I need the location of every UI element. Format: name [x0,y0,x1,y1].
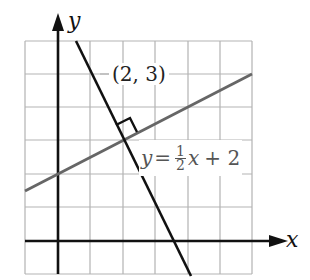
y-axis-arrow-icon [52,13,64,31]
fraction-denominator: 2 [176,159,185,172]
equation-var: x [188,147,199,169]
equation-rest: + 2 [204,147,240,169]
y-axis-label: y [68,8,80,33]
equation-lhs: y [141,147,152,169]
point-label: (2, 3) [109,63,169,85]
equation-label: y = 1 2 x + 2 [139,140,242,176]
x-axis-label: x [286,227,298,252]
equation-equals: = [154,147,171,169]
equation-fraction: 1 2 [175,145,186,172]
